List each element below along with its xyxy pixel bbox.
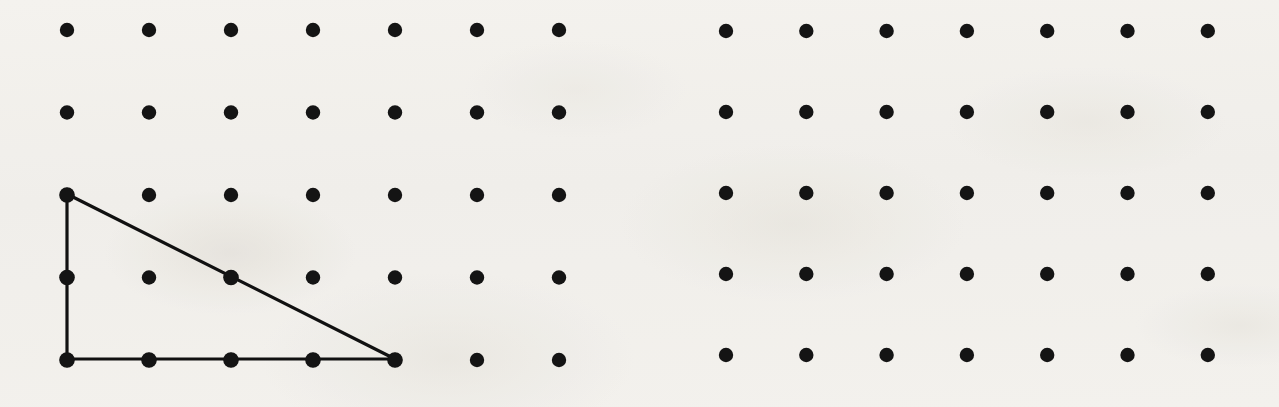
triangle-vertex-dot (387, 352, 403, 368)
grid-right-dot (1201, 267, 1215, 281)
grid-right-dot (960, 24, 974, 38)
grid-left-dot (142, 23, 156, 37)
dot-grid-right (719, 24, 1215, 362)
grid-left-dot (306, 105, 320, 119)
grid-right-dot (799, 24, 813, 38)
grid-right-dot (879, 267, 893, 281)
grid-left-dot (224, 105, 238, 119)
grid-right-dot (719, 105, 733, 119)
grid-right-dot (1201, 24, 1215, 38)
grid-left-dot (552, 188, 566, 202)
grid-left-dot (306, 270, 320, 284)
grid-right-dot (1040, 24, 1054, 38)
grid-left-dot (142, 270, 156, 284)
grid-left-dot (552, 23, 566, 37)
grid-right-dot (1201, 105, 1215, 119)
grid-left-dot (552, 105, 566, 119)
dot-grid-left (60, 23, 566, 367)
grid-left-dot (60, 105, 74, 119)
grid-left-dot (224, 188, 238, 202)
grid-right-dot (799, 105, 813, 119)
grid-right-dot (799, 348, 813, 362)
grid-right-dot (879, 348, 893, 362)
grid-right-dot (1120, 105, 1134, 119)
grid-left-dot (224, 23, 238, 37)
grid-right-dot (960, 186, 974, 200)
grid-left-dot (470, 23, 484, 37)
grid-right-dot (719, 24, 733, 38)
grid-left-dot (388, 270, 402, 284)
grid-left-dot (470, 105, 484, 119)
grid-right-dot (799, 267, 813, 281)
grid-right-dot (1120, 348, 1134, 362)
grid-right-dot (719, 267, 733, 281)
grid-left-dot (552, 353, 566, 367)
triangle-vertex-dot (59, 187, 75, 203)
grid-left-dot (388, 188, 402, 202)
grid-left-dot (470, 353, 484, 367)
grid-left-dot (306, 23, 320, 37)
dot-grid-figure (0, 0, 1279, 407)
grid-left-dot (388, 105, 402, 119)
grid-right-dot (1040, 186, 1054, 200)
grid-left-dot (470, 188, 484, 202)
grid-right-dot (960, 105, 974, 119)
grid-right-dot (1120, 267, 1134, 281)
triangle-hypotenuse-dot (223, 270, 239, 286)
triangle-leg-dot (59, 270, 75, 286)
grid-left-dot (470, 270, 484, 284)
grid-right-dot (719, 348, 733, 362)
scanned-figure-page (0, 0, 1279, 407)
grid-right-dot (879, 186, 893, 200)
grid-right-dot (879, 105, 893, 119)
grid-right-dot (1120, 24, 1134, 38)
triangle-leg-dot (305, 352, 321, 368)
grid-left-dot (142, 105, 156, 119)
grid-left-dot (60, 23, 74, 37)
grid-right-dot (1120, 186, 1134, 200)
grid-right-dot (1201, 186, 1215, 200)
grid-right-dot (719, 186, 733, 200)
grid-right-dot (1201, 348, 1215, 362)
grid-right-dot (1040, 348, 1054, 362)
grid-right-dot (879, 24, 893, 38)
grid-left-dot (306, 188, 320, 202)
grid-right-dot (1040, 105, 1054, 119)
grid-left-dot (552, 270, 566, 284)
grid-right-dot (960, 267, 974, 281)
triangle-vertex-dot (59, 352, 75, 368)
grid-right-dot (799, 186, 813, 200)
grid-left-dot (388, 23, 402, 37)
grid-left-dot (142, 188, 156, 202)
grid-right-dot (960, 348, 974, 362)
triangle-leg-dot (223, 352, 239, 368)
triangle-leg-dot (141, 352, 157, 368)
grid-right-dot (1040, 267, 1054, 281)
